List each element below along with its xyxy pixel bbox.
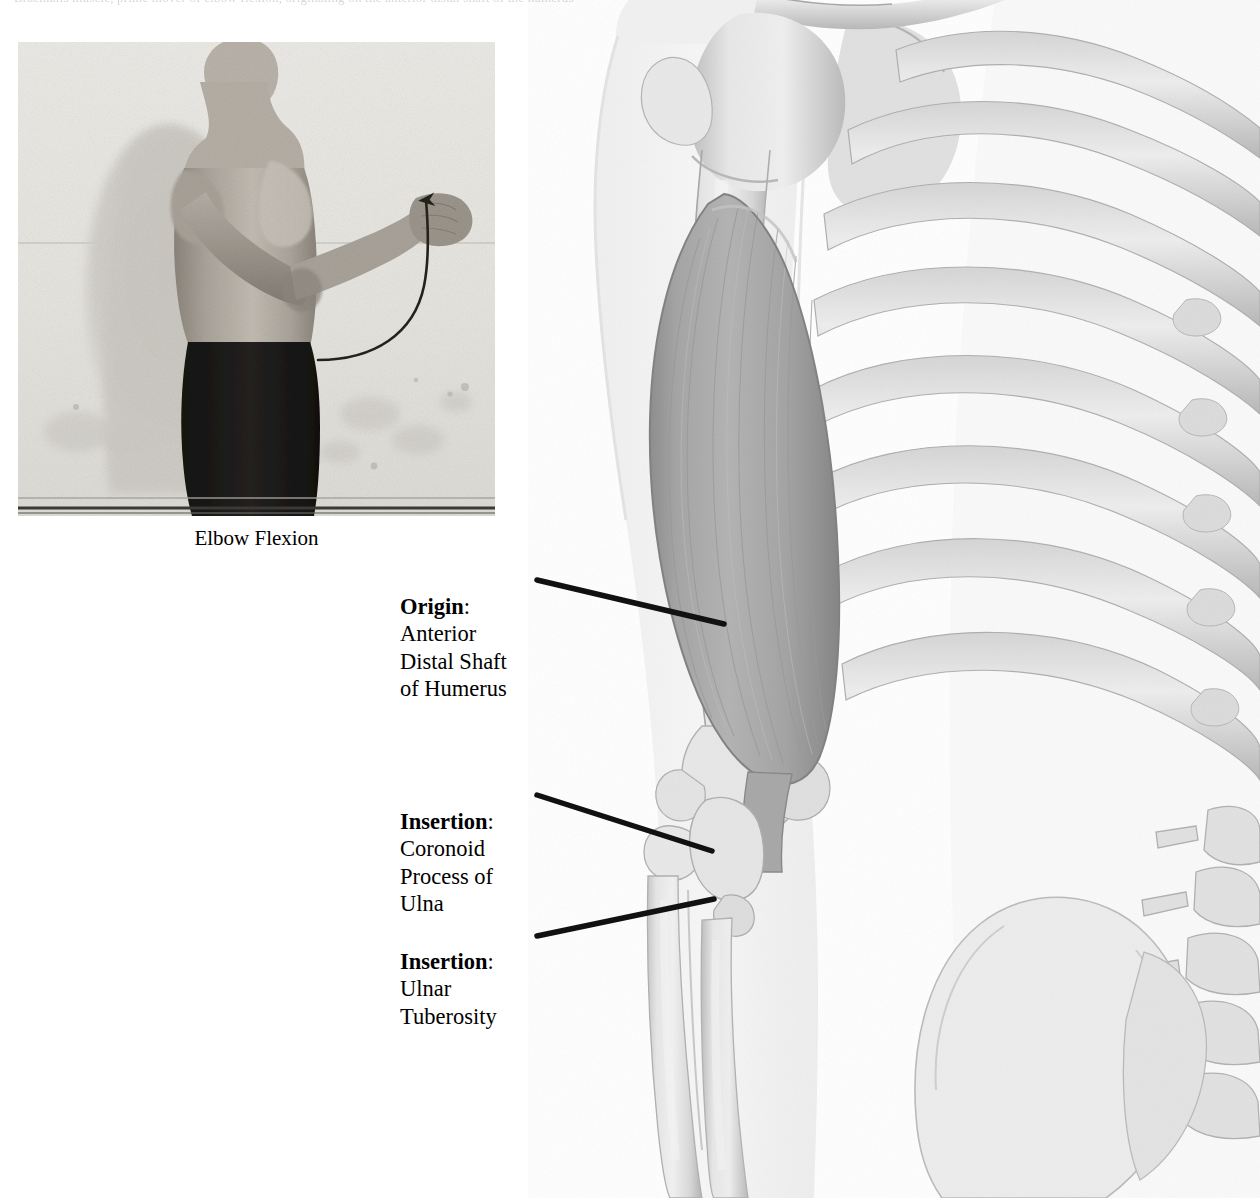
label-origin-lead: Origin	[400, 594, 464, 619]
anatomy-illustration	[496, 0, 1260, 1198]
label-origin-colon: :	[464, 594, 470, 619]
figure-page: Brachialis muscle, prime mover of elbow …	[0, 0, 1260, 1198]
label-insertion-ulnar-tuberosity-lead: Insertion	[400, 949, 488, 974]
label-insertion-coronoid-lead: Insertion	[400, 809, 488, 834]
label-insertion-ulnar-tuberosity: Insertion: Ulnar Tuberosity	[400, 920, 550, 1058]
photo-caption: Elbow Flexion	[18, 525, 495, 551]
label-origin-body: Anterior Distal Shaft of Humerus	[400, 620, 550, 703]
elbow-flexion-photograph	[18, 42, 495, 516]
label-origin: Origin: Anterior Distal Shaft of Humerus	[400, 565, 550, 730]
elbow-flexion-photo-figure	[18, 42, 495, 516]
label-insertion-coronoid-colon: :	[488, 809, 494, 834]
label-insertion-ulnar-tuberosity-body: Ulnar Tuberosity	[400, 975, 550, 1030]
label-insertion-coronoid-body: Coronoid Process of Ulna	[400, 835, 550, 918]
label-insertion-ulnar-tuberosity-colon: :	[488, 949, 494, 974]
